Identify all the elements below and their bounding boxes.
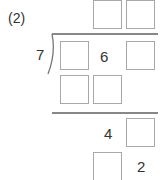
quotient-digit-box-1[interactable] bbox=[93, 0, 122, 29]
subtraction-line bbox=[52, 112, 158, 114]
product-digit-box-1[interactable] bbox=[60, 75, 89, 104]
second-product-digit-box-1[interactable] bbox=[93, 152, 122, 180]
product-digit-box-2[interactable] bbox=[93, 75, 122, 104]
problem-label: (2) bbox=[8, 10, 25, 26]
quotient-digit-box-2[interactable] bbox=[126, 0, 155, 29]
dividend-digit-2: 6 bbox=[100, 48, 108, 66]
division-bar bbox=[52, 33, 158, 35]
second-product-digit-2: 2 bbox=[137, 158, 145, 176]
dividend-digit-box-1[interactable] bbox=[60, 41, 89, 70]
divisor: 7 bbox=[36, 46, 44, 64]
remainder-digit-1: 4 bbox=[104, 125, 112, 143]
division-bracket-icon bbox=[46, 33, 56, 75]
dividend-digit-box-3[interactable] bbox=[126, 41, 155, 70]
remainder-digit-box-2[interactable] bbox=[126, 118, 155, 147]
